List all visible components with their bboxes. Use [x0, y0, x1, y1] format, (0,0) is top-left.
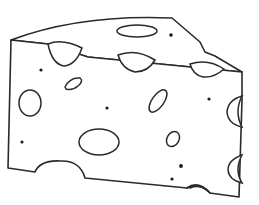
- top-dot-icon: [169, 33, 173, 37]
- dot-icon: [20, 140, 23, 143]
- cheese-wedge-drawing: [0, 0, 259, 205]
- front-hole-large-oval-icon: [79, 129, 119, 155]
- top-hole-icon: [117, 25, 157, 37]
- dot-icon: [179, 164, 183, 168]
- dot-icon: [39, 68, 42, 71]
- front-hole-left-oval-icon: [19, 90, 41, 116]
- dot-icon: [105, 106, 108, 109]
- dot-icon: [170, 177, 173, 180]
- cheese-illustration: [0, 0, 259, 205]
- dot-icon: [207, 97, 210, 100]
